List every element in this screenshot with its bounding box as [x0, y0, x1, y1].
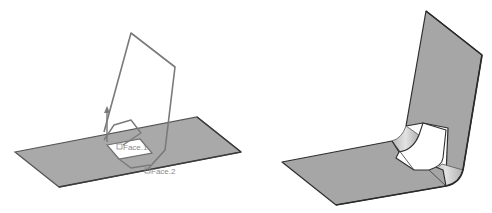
right-view-bent-part: [246, 0, 492, 213]
left-view-flange-preview: Face.1 Face.2: [0, 0, 246, 213]
face-2-label: Face.2: [151, 167, 176, 176]
flange-preview-drawing: Face.1 Face.2: [0, 0, 246, 213]
bent-part-drawing: [246, 0, 492, 213]
direction-arrow-icon: [104, 106, 110, 113]
face-1-label: Face.1: [123, 143, 148, 152]
